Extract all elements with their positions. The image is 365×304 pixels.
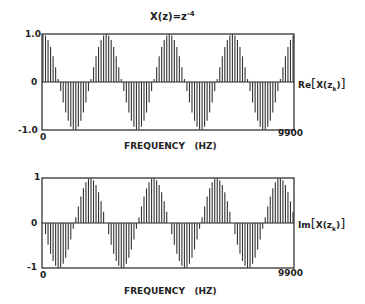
bottom-ytick-zero: 0 [31,218,37,228]
bottom-series-label: Im[X(zk)] [298,216,345,232]
bottom-xtick-min: 0 [40,270,46,280]
bottom-ytick-min: -1 [27,262,37,272]
top-xtick-max: 9900 [278,128,303,138]
re-label: Re [298,80,311,90]
plots-canvas [0,0,365,304]
top-xlabel: FREQUENCY (HZ) [124,141,217,151]
top-xtick-min: 0 [40,132,46,142]
xz-label: X(z [316,220,332,230]
top-ytick-min: -1.0 [18,125,38,135]
im-label: Im [298,220,311,230]
top-ytick-max: 1.0 [25,29,41,39]
bottom-xtick-max: 9900 [278,268,303,278]
bottom-xlabel: FREQUENCY (HZ) [124,286,217,296]
top-ytick-zero: 0 [31,77,37,87]
xz-label: X(z [316,80,332,90]
bottom-ytick-max: 1 [34,172,40,182]
top-series-label: Re[X(zk)] [298,76,346,92]
